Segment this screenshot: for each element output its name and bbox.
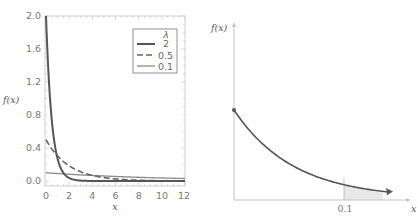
legend-label: 0.1: [158, 61, 173, 72]
x-tick-label: 8: [136, 190, 142, 201]
legend-label: 2: [163, 38, 169, 49]
y-tick-label: 2.0: [26, 10, 41, 21]
y-tick-label: 1.6: [26, 43, 41, 54]
x-tick-label: 12: [178, 190, 190, 201]
x-tick-label: 0: [43, 190, 49, 201]
x-tick-labels: 0 2 4 6 8 10 12: [43, 190, 190, 201]
x-tick-label: 2: [66, 190, 72, 201]
curve-arrow-icon: [386, 188, 393, 195]
y-axis-arrow-icon: [232, 22, 236, 27]
x-tick-label: 0.1: [337, 203, 352, 214]
density-curve: [234, 110, 388, 192]
x-axis-label: x: [112, 201, 118, 212]
x-axis-label: x: [411, 203, 417, 214]
x-tick-label: 10: [156, 190, 168, 201]
x-tick-label: 4: [89, 190, 95, 201]
y-tick-label: 1.2: [26, 76, 41, 87]
y-tick-label: 0.4: [26, 142, 41, 153]
y-tick-label: 0.8: [26, 109, 41, 120]
y-axis-label: f(x): [210, 22, 228, 33]
y-tick-label: 0.0: [26, 175, 41, 186]
start-point-marker: [232, 108, 236, 112]
y-axis-label: f(x): [2, 94, 20, 105]
figure: 0.0 0.4 0.8 1.2 1.6 2.0 0 2 4 6 8 10 12 …: [0, 0, 418, 218]
x-axis-arrow-icon: [406, 198, 410, 202]
left-chart: 0.0 0.4 0.8 1.2 1.6 2.0 0 2 4 6 8 10 12 …: [2, 10, 190, 212]
legend: λ 2 0.5 0.1: [133, 29, 177, 73]
legend-label: 0.5: [158, 50, 173, 61]
x-tick-label: 6: [112, 190, 118, 201]
y-tick-labels: 0.0 0.4 0.8 1.2 1.6 2.0: [26, 10, 41, 186]
right-chart: f(x) 0.1 x: [210, 22, 417, 214]
